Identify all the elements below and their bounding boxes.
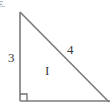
vertical-leg-label: 3 — [8, 51, 15, 64]
hypotenuse-line — [20, 12, 109, 102]
interior-region-label: I — [45, 64, 49, 77]
geometry-figure: E. 3 4 I — [0, 0, 112, 108]
triangle-drawing — [0, 0, 112, 108]
right-angle-marker-icon — [20, 94, 27, 101]
figure-caption-fragment: E. — [0, 0, 5, 9]
hypotenuse-label: 4 — [67, 43, 74, 56]
